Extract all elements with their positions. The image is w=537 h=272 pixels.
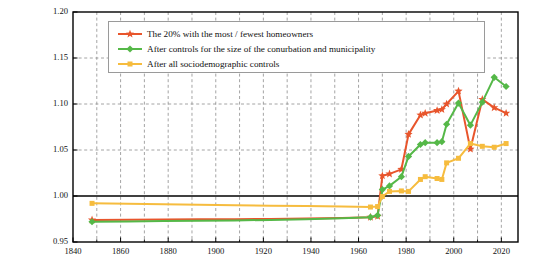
data-point-marker (456, 156, 461, 161)
data-point-marker (128, 62, 133, 67)
data-point-marker (492, 145, 497, 150)
data-point-marker (435, 176, 440, 181)
data-point-marker (126, 45, 133, 52)
x-tick-label: 1900 (196, 246, 236, 256)
data-point-marker (399, 188, 404, 193)
x-tick-label: 2000 (434, 246, 474, 256)
x-tick-label: 1920 (243, 246, 283, 256)
chart-legend: The 20% with the most / fewest homeowner… (108, 21, 485, 73)
legend-item-0[interactable]: The 20% with the most / fewest homeowner… (117, 26, 313, 42)
legend-label: After all sociodemographic controls (147, 59, 279, 69)
data-point-marker (439, 177, 444, 182)
legend-marker-diamond-icon (117, 42, 143, 56)
data-point-marker (418, 177, 423, 182)
data-point-marker (468, 141, 473, 146)
data-point-marker (504, 141, 509, 146)
legend-marker-square-icon (117, 57, 143, 71)
data-point-marker (126, 30, 134, 38)
y-tick-label: 1.15 (34, 52, 68, 62)
y-tick-label: 1.20 (34, 6, 68, 16)
legend-marker-star-icon (117, 27, 143, 41)
x-tick-label: 1840 (53, 246, 93, 256)
x-tick-label: 1860 (101, 246, 141, 256)
y-tick-label: 1.00 (34, 190, 68, 200)
data-point-marker (406, 189, 411, 194)
legend-item-1[interactable]: After controls for the size of the conur… (117, 41, 375, 57)
x-tick-label: 1940 (291, 246, 331, 256)
y-tick-label: 1.05 (34, 144, 68, 154)
x-tick-label: 2020 (481, 246, 521, 256)
data-point-marker (380, 194, 385, 199)
data-point-marker (480, 144, 485, 149)
data-point-marker (444, 160, 449, 165)
chart-figure: Ratio between the rate of turnout in the… (0, 0, 537, 272)
x-tick-label: 1960 (339, 246, 379, 256)
y-tick-label: 1.10 (34, 98, 68, 108)
x-tick-label: 1880 (148, 246, 188, 256)
data-point-marker (375, 204, 380, 209)
legend-label: After controls for the size of the conur… (147, 44, 375, 54)
y-tick-label: 0.95 (34, 236, 68, 246)
x-tick-label: 1980 (386, 246, 426, 256)
data-point-marker (423, 174, 428, 179)
data-point-marker (368, 205, 373, 210)
legend-label: The 20% with the most / fewest homeowner… (147, 29, 313, 39)
legend-item-2[interactable]: After all sociodemographic controls (117, 56, 279, 72)
data-point-marker (387, 189, 392, 194)
data-point-marker (90, 201, 95, 206)
